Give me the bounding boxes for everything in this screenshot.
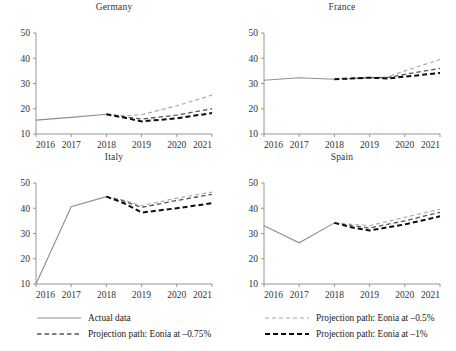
x-tick-label: 2020 (167, 140, 186, 150)
y-tick-label: 20 (21, 104, 31, 114)
plot-area: 1020304050201620172018201920202021 (228, 152, 456, 304)
plot-area: 1020304050201620172018201920202021 (228, 2, 456, 154)
x-tick-label: 2018 (325, 290, 344, 300)
legend-line-sample-p050 (264, 313, 310, 323)
x-tick-label: 2018 (325, 140, 344, 150)
chart-panel-germany: Germany102030405020162017201820192020202… (0, 2, 228, 154)
series-actual (36, 114, 106, 120)
y-tick-label: 40 (21, 54, 31, 64)
x-tick-label: 2017 (290, 290, 309, 300)
x-tick-label: 2018 (97, 290, 116, 300)
series-p100 (334, 216, 440, 230)
y-tick-label: 10 (21, 129, 31, 139)
legend-line-sample-actual (36, 313, 82, 323)
y-tick-label: 30 (21, 79, 31, 89)
x-tick-label: 2018 (97, 140, 116, 150)
y-tick-label: 20 (249, 104, 259, 114)
x-tick-label: 2019 (132, 140, 151, 150)
series-actual (264, 223, 334, 243)
y-tick-label: 20 (21, 254, 31, 264)
legend-item-p075: Projection path: Eonia at –0.75% (36, 329, 211, 339)
legend-label: Projection path: Eonia at –0.5% (310, 313, 435, 323)
series-actual (264, 78, 334, 81)
x-tick-label: 2016 (36, 290, 55, 300)
x-tick-label: 2019 (360, 290, 379, 300)
x-tick-label: 2016 (264, 140, 283, 150)
plot-area: 1020304050201620172018201920202021 (0, 2, 228, 154)
legend-item-p100: Projection path: Eonia at –1% (264, 329, 428, 339)
panel-title: Italy (0, 152, 228, 162)
y-tick-label: 40 (249, 204, 259, 214)
x-tick-label: 2017 (62, 290, 81, 300)
x-tick-label: 2019 (360, 140, 379, 150)
legend-label: Projection path: Eonia at –0.75% (82, 329, 211, 339)
y-tick-label: 50 (21, 178, 31, 188)
legend-line-sample-p100 (264, 329, 310, 339)
plot-area: 1020304050201620172018201920202021 (0, 152, 228, 304)
y-tick-label: 20 (249, 254, 259, 264)
series-p050 (334, 60, 440, 80)
y-tick-label: 30 (21, 229, 31, 239)
x-tick-label: 2021 (421, 290, 440, 300)
series-actual (36, 197, 106, 284)
y-tick-label: 40 (21, 204, 31, 214)
x-tick-label: 2020 (395, 140, 414, 150)
y-tick-label: 50 (249, 28, 259, 38)
y-tick-label: 50 (21, 28, 31, 38)
chart-legend: Actual dataProjection path: Eonia at –0.… (0, 313, 456, 347)
series-p050 (334, 209, 440, 225)
panel-title: Spain (228, 152, 456, 162)
legend-item-p050: Projection path: Eonia at –0.5% (264, 313, 435, 323)
x-tick-label: 2021 (421, 140, 440, 150)
x-tick-label: 2020 (395, 290, 414, 300)
chart-panel-france: France1020304050201620172018201920202021 (228, 2, 456, 154)
series-p050 (106, 95, 212, 115)
legend-label: Actual data (82, 313, 131, 323)
x-tick-label: 2017 (62, 140, 81, 150)
y-tick-label: 30 (249, 229, 259, 239)
y-tick-label: 50 (249, 178, 259, 188)
y-tick-label: 10 (249, 129, 259, 139)
x-tick-label: 2021 (193, 290, 212, 300)
x-tick-label: 2020 (167, 290, 186, 300)
series-p075 (106, 194, 212, 207)
x-tick-label: 2021 (193, 140, 212, 150)
chart-panel-italy: Italy1020304050201620172018201920202021 (0, 152, 228, 304)
figure-panel-grid: Germany102030405020162017201820192020202… (0, 0, 456, 351)
legend-item-actual: Actual data (36, 313, 131, 323)
panel-title: Germany (0, 2, 228, 12)
x-tick-label: 2019 (132, 290, 151, 300)
y-tick-label: 30 (249, 79, 259, 89)
chart-panel-spain: Spain1020304050201620172018201920202021 (228, 152, 456, 304)
legend-line-sample-p075 (36, 329, 82, 339)
x-tick-label: 2016 (36, 140, 55, 150)
panel-title: France (228, 2, 456, 12)
legend-label: Projection path: Eonia at –1% (310, 329, 428, 339)
y-tick-label: 10 (21, 279, 31, 289)
y-tick-label: 10 (249, 279, 259, 289)
x-tick-label: 2017 (290, 140, 309, 150)
x-tick-label: 2016 (264, 290, 283, 300)
y-tick-label: 40 (249, 54, 259, 64)
